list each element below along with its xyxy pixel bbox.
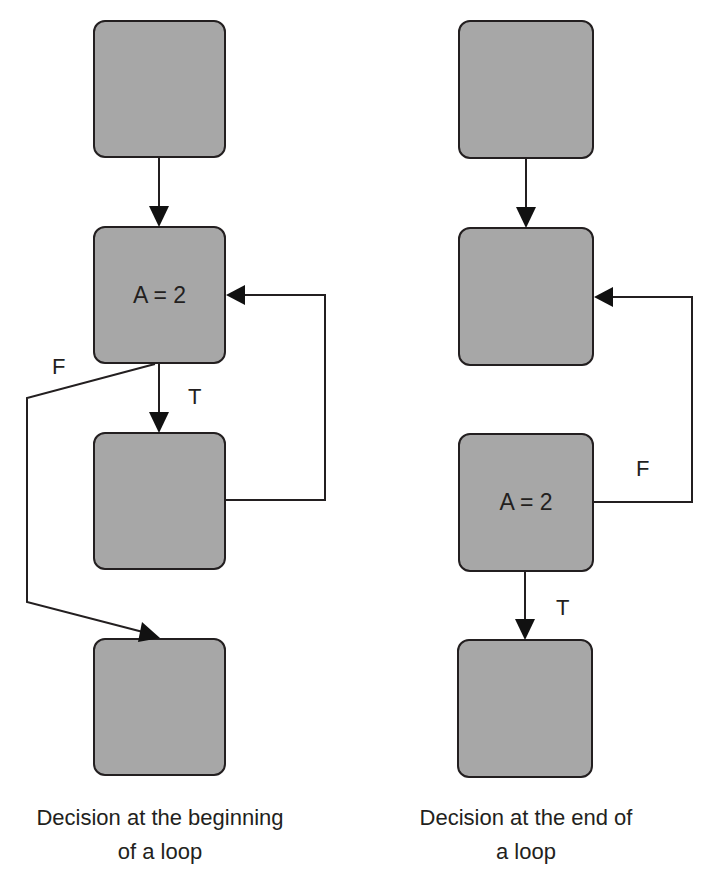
right-caption-line-1: Decision at the end of: [376, 801, 676, 835]
left-edge-loop-back: [225, 295, 325, 500]
left-diagram: [27, 21, 325, 775]
left-decision-text: A = 2: [94, 284, 225, 307]
arrowhead-down-icon: [149, 412, 169, 433]
arrowhead-left-icon: [594, 287, 613, 307]
right-box-4: [458, 640, 592, 777]
right-caption: Decision at the end of a loop: [376, 801, 676, 869]
arrowhead-left-icon: [226, 285, 245, 305]
left-box-4: [94, 639, 225, 775]
right-false-label: F: [636, 458, 649, 480]
right-decision-text: A = 2: [459, 491, 593, 514]
left-caption: Decision at the beginning of a loop: [10, 801, 310, 869]
arrowhead-down-icon: [149, 206, 169, 227]
right-box-1: [459, 21, 593, 158]
left-caption-line-2: of a loop: [10, 835, 310, 869]
left-caption-line-1: Decision at the beginning: [10, 801, 310, 835]
right-caption-line-2: a loop: [376, 835, 676, 869]
left-false-label: F: [52, 356, 65, 378]
left-box-3: [94, 433, 225, 569]
left-true-label: T: [188, 386, 201, 408]
right-box-2: [459, 228, 593, 365]
flowchart-canvas: [0, 0, 711, 890]
arrowhead-down-icon: [516, 207, 536, 228]
right-true-label: T: [556, 597, 569, 619]
right-diagram: [458, 21, 692, 777]
arrowhead-down-icon: [515, 619, 535, 640]
left-box-1: [94, 21, 225, 157]
